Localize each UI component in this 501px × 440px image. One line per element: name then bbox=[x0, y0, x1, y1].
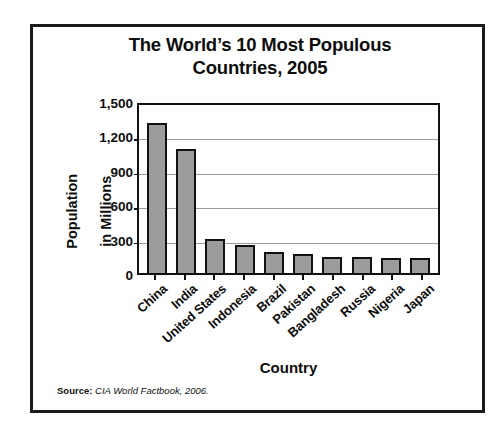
source-note: Source: CIA World Factbook, 2006. bbox=[57, 385, 209, 396]
bar bbox=[293, 254, 313, 273]
y-axis-tick-label: 900 bbox=[75, 164, 133, 179]
x-axis-tick-label: Japan bbox=[400, 281, 437, 317]
bar bbox=[264, 252, 284, 273]
bar bbox=[352, 257, 372, 273]
source-label: Source: bbox=[57, 385, 92, 396]
y-axis-tick-mark bbox=[134, 174, 139, 176]
bar bbox=[381, 258, 401, 273]
y-axis-tick-label: 1,200 bbox=[75, 130, 133, 145]
bars-group bbox=[139, 105, 438, 273]
plot-area bbox=[137, 103, 440, 275]
bar bbox=[235, 245, 255, 273]
y-axis-tick-mark bbox=[134, 208, 139, 210]
y-axis-tick-mark bbox=[134, 243, 139, 245]
y-axis-tick-mark bbox=[134, 139, 139, 141]
bar bbox=[147, 123, 167, 273]
y-axis-tick-labels: 03006009001,2001,500 bbox=[75, 103, 133, 275]
chart-figure-frame: The World’s 10 Most Populous Countries, … bbox=[30, 24, 485, 413]
bar bbox=[176, 149, 196, 273]
source-text: CIA World Factbook, 2006. bbox=[95, 385, 209, 396]
y-axis-tick-label: 1,500 bbox=[75, 96, 133, 111]
y-axis-tick-label: 0 bbox=[75, 268, 133, 283]
plot-wrapper: Population in Millions 03006009001,2001,… bbox=[33, 27, 488, 416]
x-axis-tick-label: China bbox=[134, 281, 170, 316]
y-axis-tick-label: 600 bbox=[75, 199, 133, 214]
x-axis-tick-labels: ChinaIndiaUnited StatesIndonesiaBrazilPa… bbox=[137, 281, 440, 371]
bar bbox=[322, 257, 342, 274]
bar bbox=[205, 239, 225, 273]
x-axis-title: Country bbox=[137, 359, 440, 376]
y-axis-tick-label: 300 bbox=[75, 233, 133, 248]
bar bbox=[410, 258, 430, 273]
